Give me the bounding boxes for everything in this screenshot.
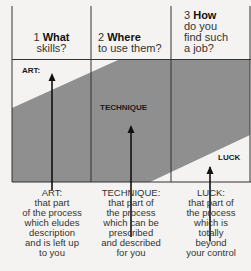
luck-zone-label: LUCK bbox=[218, 153, 240, 162]
column-header-what: 1 What skills? bbox=[12, 32, 91, 54]
header-rest: to use them? bbox=[98, 43, 170, 54]
luck-caption: LUCK: that part of the process which is … bbox=[171, 188, 251, 258]
art-zone-label: ART: bbox=[22, 66, 40, 75]
column-header-where: 2 Where to use them? bbox=[98, 32, 170, 54]
technique-caption: TECHNIQUE: that part of the process whic… bbox=[91, 188, 171, 258]
caption-line: your control bbox=[171, 248, 251, 258]
caption-line: to you bbox=[12, 248, 92, 258]
column-header-how: 3 How do you find such a job? bbox=[184, 10, 250, 54]
caption-line: for you bbox=[91, 248, 171, 258]
art-caption: ART: that part of the process which elud… bbox=[12, 188, 92, 258]
technique-zone-label: TECHNIQUE bbox=[100, 103, 147, 112]
header-rest: skills? bbox=[12, 43, 91, 54]
header-rest-line: a job? bbox=[184, 43, 250, 54]
